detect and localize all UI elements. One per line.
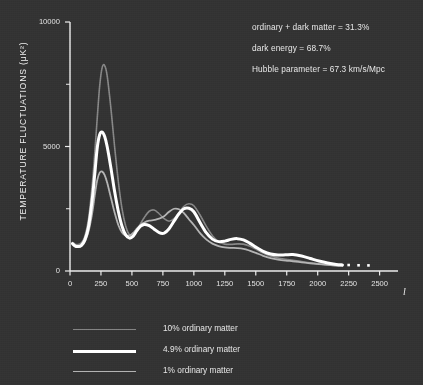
x-tick-label: 2500 (360, 279, 400, 288)
y-tick-label: 0 (16, 266, 60, 275)
legend-swatch (73, 350, 136, 353)
data-point-dot (367, 264, 370, 267)
legend-label: 4.9% ordinary matter (163, 344, 240, 354)
data-point-markers (347, 264, 369, 267)
legend-swatch (73, 371, 136, 372)
y-axis-label: TEMPERATURE FLUCTUATIONS (μK²) (18, 36, 28, 226)
cmb-power-spectrum-figure: TEMPERATURE FLUCTUATIONS (μK²) l 0500010… (0, 0, 423, 385)
y-tick-label: 10000 (16, 17, 60, 26)
curve-4-9-ordinary-matter (72, 132, 342, 265)
legend-label: 10% ordinary matter (163, 323, 238, 333)
data-point-dot (347, 264, 350, 267)
annotation-matter-density: ordinary + dark matter = 31.3% (252, 22, 369, 32)
x-axis-label: l (403, 286, 406, 297)
legend-label: 1% ordinary matter (163, 365, 233, 375)
legend-swatch (73, 329, 136, 330)
annotation-dark-energy: dark energy = 68.7% (252, 43, 331, 53)
annotation-hubble-parameter: Hubble parameter = 67.3 km/s/Mpc (252, 64, 385, 74)
curves (72, 65, 342, 266)
y-tick-label: 5000 (16, 142, 60, 151)
data-point-dot (357, 264, 360, 267)
